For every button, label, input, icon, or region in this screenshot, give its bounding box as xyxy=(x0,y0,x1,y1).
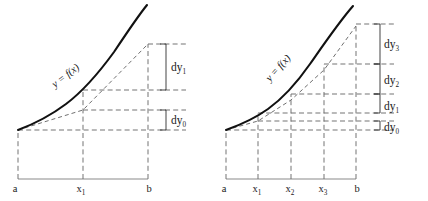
right-differential-diagram: dy3 dy2 dy1 dy0 y = f(x) a x1 x2 x3 b xyxy=(214,0,428,201)
x-tick-left-0-base: a xyxy=(13,183,18,194)
dy-label-right-0: dy3 xyxy=(384,38,400,53)
dy-label-left-0-base: dy xyxy=(171,61,183,74)
x-tick-label-left-0: a xyxy=(13,183,18,194)
dy0-bracket-left xyxy=(160,110,166,130)
dy-label-left-1-base: dy xyxy=(171,114,183,127)
dy1-bracket-left xyxy=(160,44,166,90)
left-differential-diagram: dy1 dy0 y = f(x) a x1 b xyxy=(0,0,214,201)
x-tick-label-right-1: x1 xyxy=(253,183,262,197)
x-tick-label-left-2: b xyxy=(146,183,151,194)
x-tick-right-1-sub: 1 xyxy=(258,189,262,197)
x-tick-right-0-base: a xyxy=(222,183,227,194)
function-label-right: y = f(x) xyxy=(263,52,294,85)
dy-label-left-1-sub: 0 xyxy=(183,121,187,129)
x-tick-label-right-2: x2 xyxy=(286,183,295,197)
dy0-bracket-right xyxy=(374,121,380,130)
dy-label-left-0-sub: 1 xyxy=(183,68,187,76)
dy-label-right-3: dy0 xyxy=(384,121,400,136)
dy-label-left-0: dy1 xyxy=(171,61,187,76)
secant-polyline-right xyxy=(226,26,356,130)
x-tick-right-4-base: b xyxy=(354,183,359,194)
x-tick-left-2-base: b xyxy=(146,183,151,194)
dy-label-right-3-base: dy xyxy=(384,121,396,134)
x-tick-label-left-1: x1 xyxy=(77,183,86,197)
x-tick-left-1-sub: 1 xyxy=(82,189,86,197)
dy-label-right-0-base: dy xyxy=(384,38,396,51)
x-tick-right-3-sub: 3 xyxy=(324,189,328,197)
x-tick-label-right-3: x3 xyxy=(319,183,328,197)
function-curve-right xyxy=(226,6,353,130)
dy3-bracket-right xyxy=(374,24,380,64)
dy2-bracket-right xyxy=(374,64,380,94)
dy-label-right-3-sub: 0 xyxy=(396,128,400,136)
dy-label-right-2-sub: 1 xyxy=(396,107,400,115)
dy-label-right-2-base: dy xyxy=(384,100,396,113)
dy-label-left-1: dy0 xyxy=(171,114,187,129)
x-tick-label-right-4: b xyxy=(354,183,359,194)
figure-root: dy1 dy0 y = f(x) a x1 b xyxy=(0,0,428,201)
function-curve-left xyxy=(18,5,147,130)
x-tick-right-2-sub: 2 xyxy=(291,189,295,197)
dy1-bracket-right xyxy=(374,94,380,113)
function-label-left: y = f(x) xyxy=(49,61,82,91)
x-tick-label-right-0: a xyxy=(222,183,227,194)
dy-label-right-1-sub: 2 xyxy=(396,81,400,89)
dy-label-right-1-base: dy xyxy=(384,74,396,87)
dy-label-right-0-sub: 3 xyxy=(396,45,400,53)
dy-label-right-1: dy2 xyxy=(384,74,400,89)
